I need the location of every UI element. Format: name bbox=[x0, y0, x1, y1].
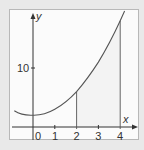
y-tick-label-10: 10 bbox=[17, 62, 29, 74]
x-axis-label: x bbox=[122, 113, 129, 125]
chart-svg: y x 10 0 1 2 3 4 bbox=[0, 0, 144, 150]
y-axis-label: y bbox=[35, 10, 43, 22]
shaded-region bbox=[77, 21, 121, 127]
x-axis-arrow-icon bbox=[132, 125, 138, 130]
x-tick-label-1: 1 bbox=[52, 130, 58, 142]
x-tick-label-4: 4 bbox=[117, 130, 123, 142]
y-axis-arrow-icon bbox=[31, 13, 36, 19]
x-tick-label-3: 3 bbox=[95, 130, 101, 142]
x-tick-label-0: 0 bbox=[35, 130, 41, 142]
x-tick-label-2: 2 bbox=[74, 130, 80, 142]
